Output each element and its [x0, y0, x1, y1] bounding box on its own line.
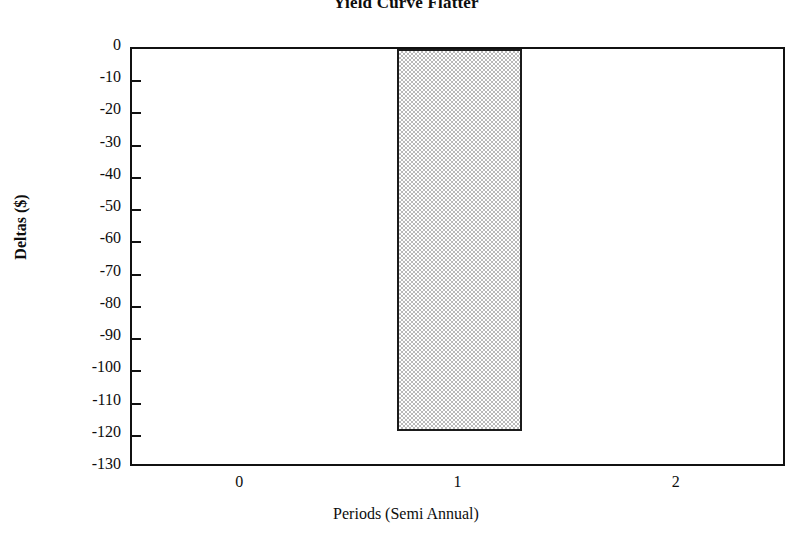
y-axis-tick-label: -30 — [48, 133, 121, 151]
y-axis-tick — [132, 274, 141, 276]
y-axis-tick-label: -50 — [48, 197, 121, 215]
y-axis-tick-label: -40 — [48, 165, 121, 183]
y-axis-tick-label: -10 — [48, 68, 121, 86]
y-axis-tick-label: -100 — [48, 358, 121, 376]
y-axis-tick — [132, 112, 141, 114]
chart-figure: Yield Curve Flatter Deltas ($) 0-10-20-3… — [0, 0, 812, 541]
x-axis-tick-label: 2 — [646, 473, 706, 491]
y-axis-tick-label: -110 — [48, 391, 121, 409]
plot-inner — [132, 49, 783, 464]
y-axis-tick-label: -90 — [48, 326, 121, 344]
x-axis-tick-label: 1 — [428, 473, 488, 491]
y-axis-tick — [132, 370, 141, 372]
y-axis-tick — [132, 145, 141, 147]
y-axis-tick-label: -80 — [48, 294, 121, 312]
y-axis-tick — [132, 435, 141, 437]
bar-1 — [397, 49, 523, 431]
plot-area — [130, 47, 785, 466]
y-axis-tick-label: -130 — [48, 455, 121, 473]
y-axis-tick-label: -70 — [48, 262, 121, 280]
y-axis-tick — [132, 306, 141, 308]
y-axis-tick — [132, 241, 141, 243]
y-axis-tick — [132, 209, 141, 211]
y-axis-tick-label: -120 — [48, 423, 121, 441]
y-axis-tick — [132, 177, 141, 179]
y-axis-tick-label: -20 — [48, 100, 121, 118]
chart-title: Yield Curve Flatter — [0, 0, 812, 13]
y-axis-tick-label: -60 — [48, 229, 121, 247]
y-axis-title: Deltas ($) — [12, 175, 30, 279]
y-axis-tick — [132, 338, 141, 340]
x-axis-title: Periods (Semi Annual) — [0, 505, 812, 523]
y-axis-tick — [132, 403, 141, 405]
x-axis-tick-label: 0 — [209, 473, 269, 491]
y-axis-tick — [132, 80, 141, 82]
y-axis-tick-label: 0 — [48, 36, 121, 54]
